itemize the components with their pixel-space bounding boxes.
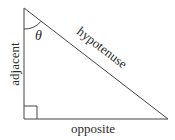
theta-label: θ bbox=[35, 28, 42, 43]
triangle bbox=[24, 8, 168, 119]
hypotenuse-side bbox=[24, 8, 168, 119]
hypotenuse-label: hypotenuse bbox=[74, 23, 130, 71]
right-angle-marker bbox=[24, 106, 37, 119]
right-triangle-diagram: θ hypotenuse adjacent opposite bbox=[0, 0, 175, 140]
adjacent-label: adjacent bbox=[7, 42, 22, 86]
opposite-label: opposite bbox=[71, 121, 115, 136]
